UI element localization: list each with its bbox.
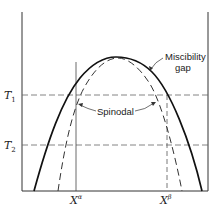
x-alpha-label: Xα bbox=[69, 193, 83, 207]
spinodal-curve bbox=[58, 58, 182, 191]
miscibility-gap-leader bbox=[151, 58, 163, 69]
arrowhead-icon bbox=[151, 102, 156, 106]
t2-label: T2 bbox=[4, 139, 16, 154]
phase-diagram: Miscibility gap Spinodal T1 T2 Xα Xβ bbox=[0, 0, 224, 210]
miscibility-gap-curve bbox=[34, 57, 202, 191]
t1-label: T1 bbox=[4, 89, 16, 104]
miscibility-label-line1: Miscibility bbox=[165, 51, 206, 62]
spinodal-leader-right bbox=[135, 103, 154, 111]
x-beta-label: Xβ bbox=[159, 193, 172, 207]
miscibility-label-line2: gap bbox=[175, 62, 191, 73]
spinodal-leader-left bbox=[80, 105, 96, 111]
spinodal-label: Spinodal bbox=[97, 106, 134, 117]
